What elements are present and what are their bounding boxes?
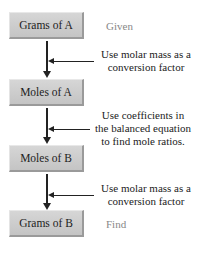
arrow-down-icon bbox=[43, 203, 51, 210]
box-label: Grams of A bbox=[19, 19, 73, 31]
step-note-2: Use coefficients in the balanced equatio… bbox=[88, 109, 198, 148]
note-line: the balanced equation bbox=[88, 122, 198, 135]
box-moles-of-a: Moles of A bbox=[9, 79, 84, 106]
box-label: Grams of B bbox=[19, 217, 73, 229]
arrow-left-icon bbox=[48, 192, 54, 198]
box-grams-of-b: Grams of B bbox=[9, 210, 84, 237]
note-line: Use molar mass as a bbox=[96, 48, 196, 61]
pointer-line-3 bbox=[54, 195, 94, 196]
flow-arrow-1 bbox=[46, 41, 48, 72]
given-label: Given bbox=[106, 20, 133, 32]
box-label: Moles of B bbox=[20, 152, 72, 164]
box-label: Moles of A bbox=[20, 86, 72, 98]
pointer-line-2 bbox=[54, 129, 90, 130]
flow-arrow-3 bbox=[46, 174, 48, 204]
note-line: conversion factor bbox=[96, 61, 196, 74]
note-line: to find mole ratios. bbox=[88, 135, 198, 148]
pointer-line-1 bbox=[54, 61, 94, 62]
box-moles-of-b: Moles of B bbox=[9, 145, 84, 172]
arrow-left-icon bbox=[48, 126, 54, 132]
arrow-down-icon bbox=[43, 137, 51, 144]
arrow-left-icon bbox=[48, 58, 54, 64]
flow-arrow-2 bbox=[46, 108, 48, 138]
step-note-1: Use molar mass as a conversion factor bbox=[96, 48, 196, 74]
arrow-down-icon bbox=[43, 71, 51, 78]
find-label: Find bbox=[106, 218, 126, 230]
step-note-3: Use molar mass as a conversion factor bbox=[96, 182, 196, 208]
note-line: conversion factor bbox=[96, 195, 196, 208]
box-grams-of-a: Grams of A bbox=[9, 12, 84, 39]
note-line: Use molar mass as a bbox=[96, 182, 196, 195]
note-line: Use coefficients in bbox=[88, 109, 198, 122]
